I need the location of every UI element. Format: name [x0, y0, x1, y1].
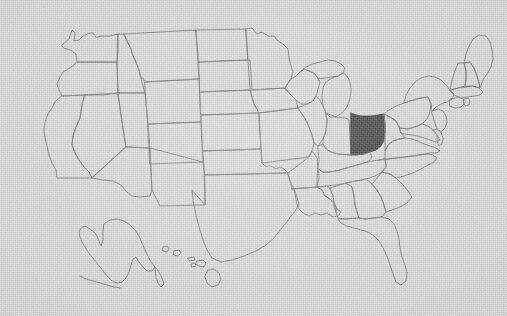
- state-montana: [124, 30, 199, 82]
- state-south-dakota: [199, 60, 250, 92]
- state-south-carolina: [372, 172, 412, 212]
- state-new-jersey: [432, 109, 447, 132]
- state-vermont: [450, 63, 466, 90]
- state-oregon: [57, 62, 118, 96]
- inset-alaska: [79, 219, 164, 288]
- hawaii-island-lanai: [191, 263, 196, 267]
- state-connecticut: [450, 97, 464, 108]
- inset-hawaii: [163, 246, 221, 287]
- state-mississippi: [317, 186, 337, 212]
- state-utah: [118, 93, 150, 148]
- hawaii-island-molokai: [188, 257, 195, 261]
- state-florida: [338, 217, 407, 285]
- state-new-york: [404, 76, 454, 111]
- state-wyoming: [145, 79, 201, 124]
- state-missouri: [259, 108, 314, 163]
- alaska-panhandle: [155, 267, 164, 287]
- state-maine: [464, 35, 493, 88]
- state-new-hampshire: [464, 62, 480, 88]
- state-maryland: [400, 124, 440, 142]
- state-colorado: [148, 122, 203, 164]
- state-indiana: [323, 113, 351, 155]
- state-nebraska: [200, 90, 259, 115]
- hawaii-island-maui: [196, 260, 206, 267]
- hawaii-island-kauai: [163, 246, 169, 252]
- state-arizona: [92, 147, 152, 197]
- state-north-dakota: [196, 29, 248, 62]
- state-nevada: [72, 93, 126, 178]
- state-texas: [192, 173, 299, 262]
- hawaii-island-oahu: [174, 250, 181, 256]
- state-kansas: [201, 113, 261, 151]
- state-washington: [62, 30, 118, 62]
- state-oklahoma: [203, 149, 288, 175]
- state-minnesota: [246, 28, 293, 90]
- state-tennessee: [317, 159, 386, 187]
- state-michigan-upper: [300, 60, 345, 82]
- state-idaho: [117, 34, 145, 93]
- state-north-carolina: [379, 154, 437, 178]
- state-ohio-highlighted: [351, 113, 385, 155]
- hawaii-island-hawaii: [205, 269, 221, 287]
- state-new-mexico: [150, 148, 205, 206]
- state-rhode-island: [464, 98, 470, 106]
- us-state-locator-map: Map of the United States with Ohio highl…: [0, 0, 507, 316]
- state-michigan-lower: [322, 73, 351, 117]
- state-georgia: [346, 179, 386, 219]
- us-map-svg: Map of the United States with Ohio highl…: [0, 0, 507, 316]
- state-alaska: [79, 219, 155, 283]
- state-california: [44, 95, 92, 178]
- state-arkansas: [288, 151, 319, 189]
